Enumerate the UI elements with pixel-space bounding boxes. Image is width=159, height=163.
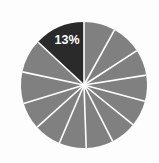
pie-chart-svg: 13% [0,0,159,163]
pie-slice-percent-label: 13% [54,33,79,47]
pie-chart-figure: 13% [0,0,159,163]
pie-label-group: 13% [54,33,79,47]
